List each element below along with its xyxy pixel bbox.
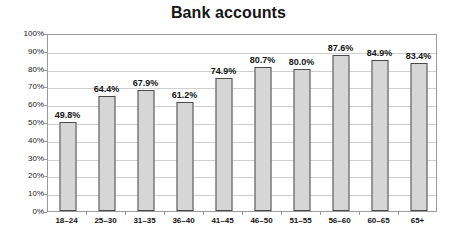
- y-tick-label: 60%: [0, 101, 44, 109]
- y-tick-label: 50%: [0, 119, 44, 127]
- x-tick-label: 36–40: [172, 216, 194, 226]
- bar-group: 87.6%: [321, 35, 360, 211]
- y-tick-label: 30%: [0, 155, 44, 163]
- x-tick-mark: [125, 212, 126, 215]
- bar-group: 61.2%: [165, 35, 204, 211]
- y-tick-mark: [44, 212, 47, 213]
- bar-value-label: 80.0%: [289, 57, 315, 67]
- y-tick-label: 0%: [0, 208, 44, 216]
- x-tick-label: 56–60: [328, 216, 350, 226]
- x-tick-label: 31–35: [133, 216, 155, 226]
- x-tick-mark: [359, 212, 360, 215]
- bar-value-label: 61.2%: [172, 90, 198, 100]
- chart-title: Bank accounts: [0, 3, 457, 23]
- bar-group: 84.9%: [360, 35, 399, 211]
- y-tick-label: 20%: [0, 172, 44, 180]
- x-tick-label: 46–50: [250, 216, 272, 226]
- x-tick-label: 41–45: [211, 216, 233, 226]
- x-tick-mark: [86, 212, 87, 215]
- x-tick-label: 60–65: [367, 216, 389, 226]
- bar-value-label: 80.7%: [250, 55, 276, 65]
- y-tick-label: 70%: [0, 83, 44, 91]
- bar-group: 83.4%: [399, 35, 438, 211]
- bar: [215, 78, 232, 211]
- x-tick-label: 18–24: [55, 216, 77, 226]
- y-axis: 0%10%20%30%40%50%60%70%80%90%100%: [0, 34, 44, 212]
- y-tick-label: 90%: [0, 48, 44, 56]
- bar-value-label: 84.9%: [367, 48, 393, 58]
- bar-group: 80.0%: [282, 35, 321, 211]
- x-tick-mark: [398, 212, 399, 215]
- bar-value-label: 49.8%: [55, 110, 81, 120]
- y-tick-label: 100%: [0, 30, 44, 38]
- bar: [371, 60, 388, 211]
- bar-group: 49.8%: [48, 35, 87, 211]
- bar-value-label: 64.4%: [94, 84, 120, 94]
- bar: [98, 96, 115, 211]
- bar-group: 67.9%: [126, 35, 165, 211]
- y-tick-label: 40%: [0, 137, 44, 145]
- y-tick-label: 10%: [0, 190, 44, 198]
- x-tick-label: 65+: [411, 216, 425, 226]
- bar: [293, 69, 310, 211]
- bar-value-label: 67.9%: [133, 78, 159, 88]
- bar: [410, 63, 427, 211]
- x-tick-label: 25–30: [94, 216, 116, 226]
- plot-area: 49.8%64.4%67.9%61.2%74.9%80.7%80.0%87.6%…: [47, 34, 437, 212]
- x-tick-mark: [281, 212, 282, 215]
- x-tick-mark: [203, 212, 204, 215]
- x-tick-mark: [242, 212, 243, 215]
- bar: [137, 90, 154, 211]
- bar-group: 80.7%: [243, 35, 282, 211]
- y-tick-label: 80%: [0, 66, 44, 74]
- x-tick-label: 51–55: [289, 216, 311, 226]
- bar-group: 64.4%: [87, 35, 126, 211]
- bar-value-label: 83.4%: [406, 51, 432, 61]
- bar: [254, 67, 271, 211]
- x-tick-mark: [320, 212, 321, 215]
- bar-value-label: 74.9%: [211, 66, 237, 76]
- bar: [176, 102, 193, 211]
- x-axis: 18–2425–3031–3536–4041–4546–5051–5556–60…: [47, 216, 437, 230]
- bar-chart: Bank accounts 0%10%20%30%40%50%60%70%80%…: [0, 0, 457, 242]
- bar: [332, 55, 349, 211]
- bar: [59, 122, 76, 211]
- bar-group: 74.9%: [204, 35, 243, 211]
- x-tick-mark: [164, 212, 165, 215]
- bar-value-label: 87.6%: [328, 43, 354, 53]
